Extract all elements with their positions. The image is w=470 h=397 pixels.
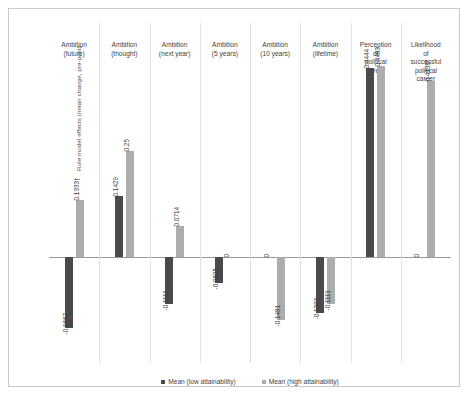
bar-value-label: 0.4444 xyxy=(363,49,370,69)
category-label: Ambition (next year) xyxy=(150,41,200,58)
bar[interactable] xyxy=(126,151,134,257)
bar-value-label: -0.1111 xyxy=(162,290,169,310)
bar[interactable] xyxy=(377,66,385,257)
legend-swatch-icon xyxy=(161,380,165,384)
chart-frame: Role model effects (mean change, pre-pos… xyxy=(8,8,460,387)
bar-value-label: 0 xyxy=(263,254,270,258)
legend-label: Mean (high attainability) xyxy=(269,378,339,385)
category-label: Ambition (10 years) xyxy=(250,41,300,58)
category-label: Ambition (thought) xyxy=(99,41,149,58)
bar-value-label: -0.1111 xyxy=(324,290,331,310)
bar-value-label: 0.0714 xyxy=(173,207,180,227)
category-group: Ambition (next year)-0.11110.0714 xyxy=(150,23,200,363)
bar[interactable] xyxy=(115,196,123,257)
category-group: Ambition (5 years)-0.06250 xyxy=(200,23,250,363)
bar[interactable] xyxy=(366,68,374,257)
bar[interactable] xyxy=(76,200,84,257)
category-group: Perception of political career0.44440.44… xyxy=(351,23,401,363)
bar[interactable] xyxy=(176,226,184,256)
bar-value-label: 0.4483 xyxy=(374,47,381,67)
legend-item[interactable]: Mean (low attainability) xyxy=(161,378,235,385)
category-group: Ambition (lifetime)-0.1333-0.1111 xyxy=(300,23,350,363)
category-group: Ambition (future)-0.16670.1333† xyxy=(49,23,99,363)
category-group: Ambition (thought)0.14290.25 xyxy=(99,23,149,363)
bar-value-label: 0.25 xyxy=(123,139,130,151)
category-label: Ambition (lifetime) xyxy=(300,41,350,58)
category-label: Ambition (future) xyxy=(49,41,99,58)
legend-label: Mean (low attainability) xyxy=(168,378,235,385)
bar-value-label: 0.1333† xyxy=(73,177,80,200)
bar-value-label: 0.4138* xyxy=(424,59,431,81)
legend-item[interactable]: Mean (high attainability) xyxy=(262,378,339,385)
legend-swatch-icon xyxy=(262,380,266,384)
bar-value-label: 0 xyxy=(413,254,420,258)
plot-area: Ambition (future)-0.16670.1333†Ambition … xyxy=(49,23,451,363)
bar-value-label: -0.0625 xyxy=(212,268,219,290)
bar-value-label: -0.1667 xyxy=(62,312,69,334)
bar[interactable] xyxy=(427,81,435,257)
category-label: Ambition (5 years) xyxy=(200,41,250,58)
bar-value-label: -0.1333 xyxy=(313,298,320,320)
category-group: Ambition (10 years)0-0.1481 xyxy=(250,23,300,363)
bar-value-label: 0.1429 xyxy=(112,177,119,197)
bar-value-label: -0.1481 xyxy=(274,305,281,327)
chart-legend: Mean (low attainability)Mean (high attai… xyxy=(49,378,451,385)
bar-value-label: 0 xyxy=(223,254,230,258)
category-group: Likelihood of successful political caree… xyxy=(401,23,451,363)
